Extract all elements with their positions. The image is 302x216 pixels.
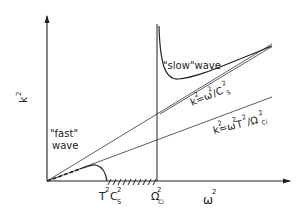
- lower-o-sup: 2: [257, 109, 263, 118]
- fast-wave-curve: [80, 165, 107, 181]
- hatched-band: [108, 179, 156, 185]
- lower-asymptote-label: k 2 =ω 2 T 2 /Ω 2 Ci: [211, 108, 269, 138]
- slow-wave-curve: [159, 26, 272, 79]
- fast-wave-label-line1: "fast": [50, 128, 78, 139]
- tick-label-tcs: T 2 C 2 S: [98, 186, 121, 206]
- lower-div: /Ω: [246, 114, 260, 127]
- y-axis-label-base: k: [17, 96, 30, 103]
- upper-c-sub: S: [225, 88, 231, 96]
- x-axis-label: ω 2: [203, 188, 216, 207]
- upper-c-sup: 2: [221, 79, 228, 88]
- tick-tcs-C-sub: S: [117, 198, 121, 206]
- tick-omega-sub: Ci: [158, 198, 164, 205]
- x-axis-label-sup: 2: [212, 188, 216, 196]
- tick-tcs-T-sup: 2: [105, 186, 109, 194]
- y-axis-label: k 2: [15, 92, 30, 103]
- tick-tcs-C-sup: 2: [117, 186, 121, 194]
- fast-wave-label-line2: wave: [52, 140, 78, 151]
- tick-omega-sup: 2: [157, 186, 161, 194]
- tick-label-omega-ci: Ω 2 Ci: [151, 186, 164, 205]
- upper-asymptote-line: [47, 44, 272, 181]
- slow-wave-label: "slow"wave: [163, 60, 221, 71]
- upper-asymptote-label: k 2 =ω 2 /C 2 S: [187, 79, 231, 110]
- y-axis-label-sup: 2: [15, 92, 23, 96]
- dispersion-diagram: k 2 ω 2 T 2 C 2 S Ω 2 Ci "slow"wave "fas…: [0, 0, 302, 216]
- lower-o-sub: Ci: [261, 118, 269, 126]
